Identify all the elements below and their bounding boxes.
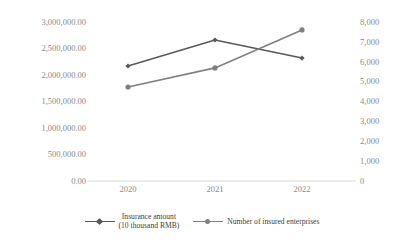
series-insurance-amount-line: [128, 40, 302, 66]
legend-label: Number of insured enterprises: [227, 217, 319, 226]
legend-item-insured-enterprises[interactable]: Number of insured enterprises: [193, 216, 319, 226]
data-point-marker: [125, 63, 130, 68]
data-point-marker: [212, 37, 217, 42]
data-point-marker: [299, 27, 304, 32]
data-point-marker: [299, 55, 304, 60]
legend-item-insurance-amount[interactable]: Insurance amount (10 thousand RMB): [85, 212, 180, 230]
legend-marker-diamond-icon: [85, 216, 115, 226]
plot-area: [0, 0, 404, 240]
chart-container: 3,000,000.00 2,500,000.00 2,000,000.00 1…: [0, 0, 404, 240]
legend-label: Insurance amount (10 thousand RMB): [119, 212, 180, 230]
data-point-marker: [125, 84, 130, 89]
data-point-marker: [212, 65, 217, 70]
legend-marker-circle-icon: [193, 216, 223, 226]
chart-legend: Insurance amount (10 thousand RMB) Numbe…: [0, 212, 404, 230]
